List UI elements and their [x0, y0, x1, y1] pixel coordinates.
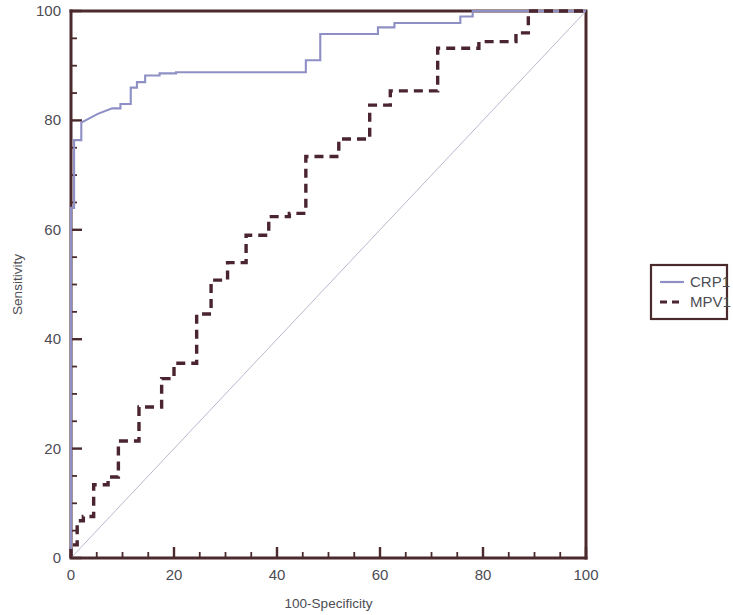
x-tick-label: 100: [573, 566, 598, 583]
x-tick-label: 40: [269, 566, 286, 583]
x-axis-title: 100-Specificity: [285, 596, 373, 611]
x-tick-label: 20: [166, 566, 183, 583]
roc-chart-figure: 020406080100020406080100100-SpecificityS…: [0, 0, 733, 615]
y-tick-label: 40: [44, 330, 61, 347]
legend-label-mpv1: MPV1: [690, 293, 731, 310]
legend-label-crp1: CRP1: [690, 273, 730, 290]
x-tick-label: 80: [475, 566, 492, 583]
diagonal-reference-line: [71, 11, 586, 558]
roc-plot-svg: 020406080100020406080100100-SpecificityS…: [0, 0, 733, 615]
y-tick-label: 60: [44, 221, 61, 238]
plot-area: 020406080100020406080100100-SpecificityS…: [10, 2, 731, 611]
x-tick-label: 60: [372, 566, 389, 583]
y-tick-label: 20: [44, 440, 61, 457]
x-tick-label: 0: [67, 566, 75, 583]
y-axis-title: Sensitivity: [10, 254, 25, 315]
y-tick-label: 0: [53, 549, 61, 566]
y-tick-label: 80: [44, 111, 61, 128]
y-tick-label: 100: [36, 2, 61, 19]
